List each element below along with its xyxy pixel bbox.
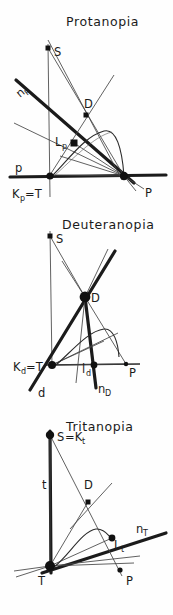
panel-deuteranopia: Deuteranopia S D K d =T l d P d n D [0,205,173,405]
point-p [117,567,122,572]
label-lp-sub: p [62,142,67,151]
panel-tritanopia: Tritanopia S =K t t D n T L t T P [0,405,173,615]
line-through-d-4 [85,249,108,297]
panel-protanopia: Protanopia S D n P L p p K p =T P [0,0,173,205]
label-s-eq: =K [65,430,83,444]
label-kp-eq: =T [25,187,43,201]
figure-sheet: Protanopia S D n P L p p K p =T P [0,0,173,615]
point-s [46,46,51,51]
vertical-axis [50,231,52,367]
point-kp [46,172,53,179]
label-d: D [91,291,100,305]
label-kp: K p =T [12,187,43,203]
label-point-p: P [145,186,152,200]
point-d [80,292,91,303]
label-t: T [37,574,46,588]
point-d [86,500,91,505]
point-lp [71,140,78,147]
label-kd-main: K [13,360,21,374]
label-s: S [54,45,61,59]
label-lp-main: L [55,135,62,149]
label-axis-d: d [38,386,45,400]
line-np [16,80,134,183]
label-axis-p: p [15,161,22,175]
point-p [120,172,128,180]
point-ld [91,362,98,369]
confusion-line-4 [74,143,124,176]
point-s [46,431,54,439]
label-kd-eq: =T [26,360,44,374]
ray-6 [14,566,50,571]
label-kd: K d =T [13,360,44,376]
deuteranopia-diagram: Deuteranopia S D K d =T l d P d n D [0,205,173,405]
label-kp-main: K [12,187,20,201]
label-nd: n D [98,382,111,398]
tritanopia-diagram: Tritanopia S =K t t D n T L t T P [0,405,173,615]
label-lp: L p [55,135,67,151]
ray-2 [50,502,88,566]
line-s-to-p [50,435,122,576]
label-nd-sub: D [105,389,111,398]
label-ld-sub: d [86,369,91,378]
label-point-p: P [126,574,133,588]
point-p [124,362,128,366]
label-lt-main: L [114,538,121,552]
line-through-d-1 [50,75,114,175]
label-axis-t: t [42,478,47,492]
point-t [45,561,55,571]
panel-title: Protanopia [66,14,139,29]
point-d [84,113,89,118]
line-through-d-5 [62,261,85,297]
label-s-sub: t [82,437,85,446]
label-lt-sub: t [121,545,124,554]
line-d [30,251,115,390]
label-point-p: P [129,366,136,380]
label-nt-sub: T [142,529,148,538]
line-nt [42,533,166,573]
label-d: D [84,478,93,492]
label-s-main: S [57,430,64,444]
label-nt: n T [136,522,148,538]
point-kd [48,361,56,369]
label-ld-main: l [82,362,85,376]
protanopia-diagram: Protanopia S D n P L p p K p =T P [0,0,173,205]
label-s: S [56,232,63,246]
label-s: S =K t [57,430,85,446]
label-lt: L t [114,538,124,554]
point-s [48,234,53,239]
panel-title: Deuteranopia [62,217,154,232]
label-d: D [84,97,93,111]
